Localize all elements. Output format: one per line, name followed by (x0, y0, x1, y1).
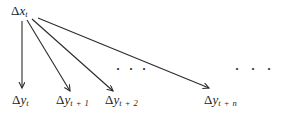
ellipsis-dots-middle: ··· (116, 63, 155, 75)
arrow-to-y-tn (38, 18, 209, 88)
subscript-t-plus-2: t + 2 (119, 98, 138, 108)
subscript-t: t (26, 98, 29, 108)
source-label-delta-x-t: Δxt (11, 4, 28, 17)
target-label-delta-y-t2: Δyt + 2 (105, 93, 138, 106)
arrow-to-y-t2 (32, 19, 113, 91)
subscript-t-plus-1: t + 1 (70, 98, 89, 108)
target-label-delta-y-tn: Δyt + n (204, 93, 237, 106)
target-label-delta-y-t: Δyt (12, 93, 29, 106)
arrow-to-y-t1 (27, 20, 70, 91)
lag-diagram: Δxt Δyt Δyt + 1 Δyt + 2 Δyt + n ··· ··· (0, 0, 284, 116)
ellipsis-dots-right: ··· (235, 63, 283, 75)
target-label-delta-y-t1: Δyt + 1 (56, 93, 89, 106)
arrows-svg (0, 0, 284, 116)
subscript-t-plus-n: t + n (218, 98, 237, 108)
subscript-t: t (25, 9, 28, 19)
